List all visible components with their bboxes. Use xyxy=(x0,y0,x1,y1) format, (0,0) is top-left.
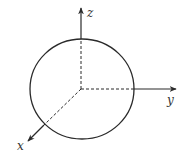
x-axis xyxy=(28,125,44,141)
x-axis-hidden xyxy=(44,89,81,125)
coordinate-diagram: z y x xyxy=(0,0,190,160)
z-axis-label: z xyxy=(86,6,94,20)
y-axis-label: y xyxy=(166,93,174,107)
x-axis-label: x xyxy=(17,139,24,153)
